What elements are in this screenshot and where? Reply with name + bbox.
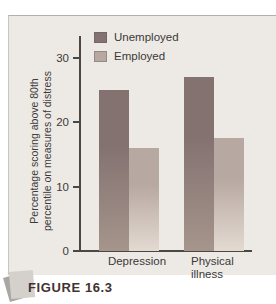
legend-item-employed: Employed [94, 50, 179, 62]
figure-16-3: Percentage scoring above 80th percentile… [0, 0, 276, 304]
y-axis-title-line2: percentile on measures of distress [41, 41, 54, 261]
bar-unemployed-1 [184, 77, 214, 251]
y-axis-title: Percentage scoring above 80th percentile… [28, 41, 54, 261]
y-tick-label-30: 30 [43, 52, 69, 64]
legend: UnemployedEmployed [94, 31, 179, 69]
category-label-physical-illness: Physical illness [191, 255, 243, 281]
bar-employed-0 [129, 148, 159, 251]
chart-panel: Percentage scoring above 80th percentile… [8, 15, 276, 275]
y-tick-mark-20 [73, 121, 80, 123]
legend-swatch-employed [94, 51, 107, 62]
y-axis-title-line1: Percentage scoring above 80th [28, 41, 41, 261]
y-tick-label-10: 10 [43, 181, 69, 193]
y-tick-mark-10 [73, 186, 80, 188]
legend-item-unemployed: Unemployed [94, 31, 179, 43]
y-axis-line [79, 36, 81, 252]
legend-label-unemployed: Unemployed [114, 31, 179, 43]
bar-employed-1 [214, 138, 244, 251]
figure-caption: FIGURE 16.3 [28, 280, 113, 295]
y-tick-label-0: 0 [43, 245, 69, 257]
y-tick-mark-0 [73, 250, 80, 252]
y-tick-label-20: 20 [43, 116, 69, 128]
legend-swatch-unemployed [94, 32, 107, 43]
bar-unemployed-0 [99, 90, 129, 251]
category-label-depression: Depression [99, 255, 175, 268]
legend-label-employed: Employed [114, 50, 165, 62]
y-tick-mark-30 [73, 57, 80, 59]
